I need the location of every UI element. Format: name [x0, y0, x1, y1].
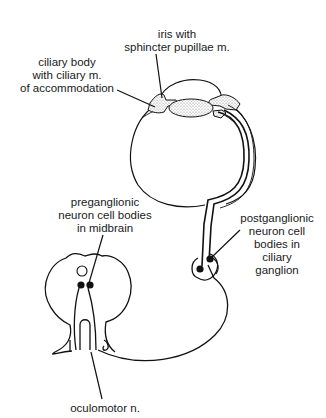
label-iris-line2: sphincter pupillae m. — [122, 41, 232, 54]
leader-ciliary — [117, 90, 155, 107]
label-post-line5: ganglion — [232, 264, 322, 277]
ganglion-neuron-1 — [196, 265, 203, 272]
label-pre-line3: in midbrain — [50, 222, 160, 235]
label-post-line1: postganglionic — [232, 212, 322, 225]
label-post-line4: ciliary — [232, 251, 322, 264]
label-preganglionic: preganglionic neuron cell bodies in midb… — [50, 196, 160, 235]
label-post-line3: bodies in — [232, 238, 322, 251]
label-pre-line2: neuron cell bodies — [50, 209, 160, 222]
label-post-line2: neuron cell — [232, 225, 322, 238]
midbrain-neuron-2 — [86, 281, 93, 288]
label-pre-line1: preganglionic — [50, 196, 160, 209]
leader-preganglionic — [89, 235, 103, 283]
leader-iris — [156, 54, 162, 98]
cerebral-aqueduct — [77, 266, 87, 276]
midbrain-neuron-1 — [77, 281, 84, 288]
ciliary-ganglion — [192, 254, 218, 280]
label-iris-line1: iris with — [122, 28, 232, 41]
label-ciliary-body: ciliary body with ciliary m. of accommod… — [12, 56, 122, 95]
label-oculomotor: oculomotor n. — [55, 402, 155, 415]
midbrain — [45, 254, 131, 355]
label-ciliary-line3: of accommodation — [12, 82, 122, 95]
label-iris: iris with sphincter pupillae m. — [122, 28, 232, 54]
label-ciliary-line2: with ciliary m. — [12, 69, 122, 82]
label-ciliary-line1: ciliary body — [12, 56, 122, 69]
label-postganglionic: postganglionic neuron cell bodies in cil… — [232, 212, 322, 277]
label-oculomotor-line1: oculomotor n. — [55, 402, 155, 415]
leader-oculomotor — [91, 352, 102, 399]
lens — [169, 99, 213, 117]
